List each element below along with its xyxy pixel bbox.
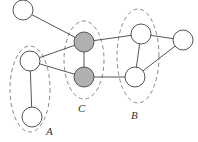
- node-c-bottom: [74, 67, 94, 87]
- node-c-top: [74, 32, 94, 52]
- node-right: [173, 30, 193, 50]
- graph-diagram: [0, 0, 198, 142]
- node-a-bottom: [22, 107, 42, 127]
- node-b-bottom: [125, 67, 145, 87]
- node-a-top: [20, 51, 40, 71]
- node-top-left: [13, 0, 33, 20]
- group-b-label: B: [131, 109, 138, 121]
- node-b-top: [131, 24, 151, 44]
- group-a-label: A: [46, 125, 53, 137]
- group-c-label: C: [78, 102, 85, 114]
